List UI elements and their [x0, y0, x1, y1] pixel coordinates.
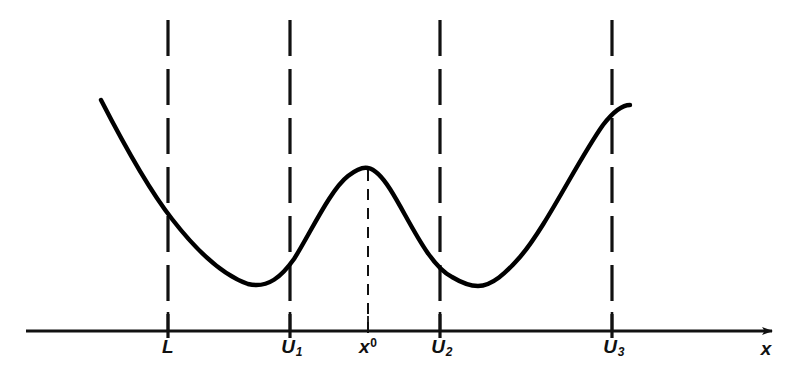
figure-canvas: L U1 x0 U2 U3 x	[0, 0, 798, 377]
x-axis-label: x	[761, 338, 772, 360]
tick-label-x0: x0	[359, 336, 377, 358]
tick-label-U2: U2	[431, 336, 452, 359]
function-curve	[101, 100, 630, 286]
tick-label-L: L	[162, 336, 174, 358]
dashed-marker-lines	[168, 20, 612, 338]
axis-ticks	[168, 312, 612, 331]
figure-svg	[0, 0, 798, 377]
tick-label-U3: U3	[603, 336, 624, 359]
tick-label-U1: U1	[281, 336, 302, 359]
